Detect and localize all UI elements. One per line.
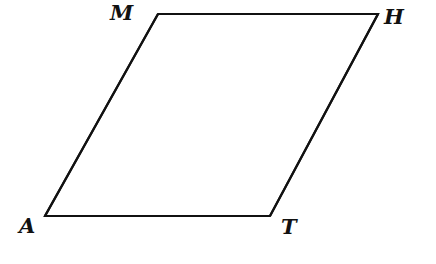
vertex-label-h: H <box>383 4 405 29</box>
edge-AM <box>45 14 158 216</box>
vertex-label-m: M <box>109 0 134 25</box>
parallelogram-diagram: M H A T <box>0 0 436 264</box>
vertex-label-t: T <box>281 214 298 239</box>
parallelogram-MHTA <box>45 14 378 216</box>
vertex-label-a: A <box>17 213 35 238</box>
edge-HT <box>270 14 378 216</box>
